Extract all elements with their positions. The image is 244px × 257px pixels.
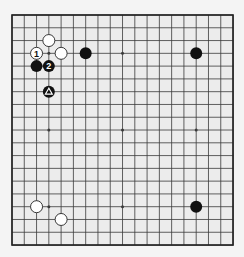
- star-point: [195, 129, 198, 132]
- move-number-label: 1: [34, 49, 39, 59]
- star-point: [47, 52, 50, 55]
- white-stone: [55, 213, 67, 225]
- black-stone: [80, 47, 92, 59]
- white-stone: [43, 35, 55, 47]
- star-point: [47, 205, 50, 208]
- star-point: [121, 129, 124, 132]
- star-point: [47, 129, 50, 132]
- white-stone: 1: [31, 47, 43, 59]
- go-board-diagram: 12: [0, 0, 244, 257]
- white-stone: [31, 201, 43, 213]
- black-stone: [31, 60, 43, 72]
- black-stone: [43, 86, 55, 98]
- star-point: [121, 205, 124, 208]
- star-point: [121, 52, 124, 55]
- black-stone: [190, 201, 202, 213]
- move-number-label: 2: [46, 61, 51, 71]
- white-stone: [55, 47, 67, 59]
- black-stone: [190, 47, 202, 59]
- black-stone: 2: [43, 60, 55, 72]
